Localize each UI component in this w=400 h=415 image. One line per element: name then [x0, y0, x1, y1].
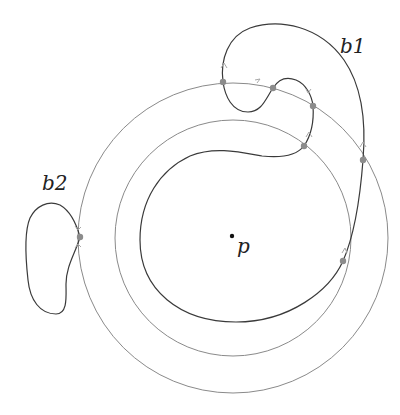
intersection-dots — [77, 79, 366, 264]
direction-arrows — [75, 63, 366, 253]
arrow-icon — [255, 79, 260, 83]
inner-circle — [115, 120, 351, 356]
intersection-dot — [77, 234, 83, 240]
intersection-dot — [301, 143, 307, 149]
center-point — [230, 234, 234, 238]
intersection-dot — [340, 258, 346, 264]
arrow-icon — [360, 142, 366, 147]
b2-loop-curve — [26, 203, 80, 314]
label-b1: b1 — [340, 34, 366, 58]
intersection-dot — [220, 79, 226, 85]
intersection-dot — [310, 103, 316, 109]
b1-loop-curve — [222, 24, 364, 261]
label-b2: b2 — [42, 171, 68, 195]
curve-diagram: b1 b2 p — [0, 0, 400, 415]
label-p: p — [237, 234, 250, 258]
arrow-icon — [221, 63, 227, 68]
arrow-icon — [342, 248, 347, 253]
outer-circle — [78, 83, 388, 393]
intersection-dot — [270, 85, 276, 91]
intersection-dot — [360, 157, 366, 163]
